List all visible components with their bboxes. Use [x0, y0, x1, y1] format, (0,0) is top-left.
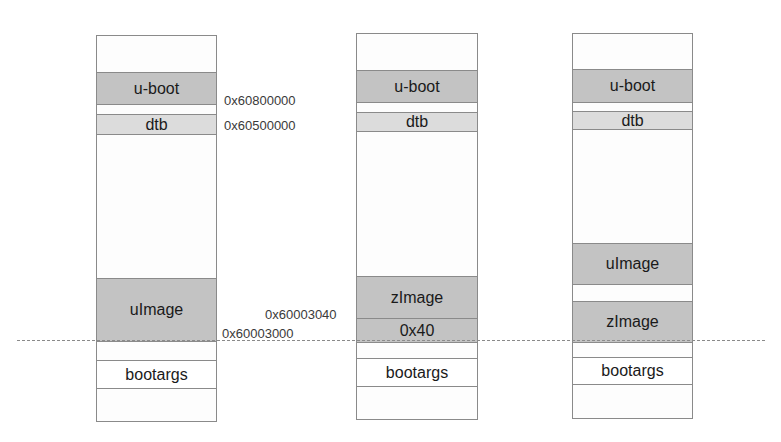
uboot-label: u-boot: [134, 80, 179, 98]
bootargs-label: bootargs: [601, 362, 663, 380]
address-dtb: 0x60500000: [224, 118, 296, 133]
uboot-block: u-boot: [96, 72, 217, 105]
uimage-block: uImage: [96, 278, 217, 342]
bootargs-block: bootargs: [356, 358, 478, 387]
dtb-block: dtb: [96, 114, 217, 135]
uboot-block: u-boot: [356, 70, 478, 103]
zimage-block: zImage: [572, 301, 693, 343]
dtb-label: dtb: [621, 112, 643, 130]
uboot-block: u-boot: [572, 69, 693, 103]
uboot-label: u-boot: [610, 77, 655, 95]
uimage-label: uImage: [606, 255, 659, 273]
zimage-label: zImage: [391, 289, 443, 307]
bootargs-label: bootargs: [125, 366, 187, 384]
memory-column-2: u-boot dtb zImage 0x40 bootargs: [356, 33, 478, 420]
bootargs-label: bootargs: [386, 364, 448, 382]
load-address-dashed-line: [17, 340, 765, 341]
dtb-block: dtb: [356, 112, 478, 132]
zimage-label: zImage: [606, 313, 658, 331]
address-zimage-start: 0x60003040: [265, 307, 337, 322]
address-uboot: 0x60800000: [224, 93, 296, 108]
dtb-label: dtb: [406, 113, 428, 131]
bootargs-block: bootargs: [96, 360, 217, 389]
uboot-label: u-boot: [394, 78, 439, 96]
uimage-block: uImage: [572, 243, 693, 285]
bootargs-block: bootargs: [572, 357, 693, 385]
uimage-label: uImage: [130, 301, 183, 319]
zimage-block: zImage: [356, 276, 478, 319]
dtb-label: dtb: [145, 116, 167, 134]
header-0x40-label: 0x40: [400, 322, 435, 340]
address-load-base: 0x60003000: [222, 326, 294, 341]
memory-column-3: u-boot dtb uImage zImage bootargs: [572, 33, 693, 419]
dtb-block: dtb: [572, 111, 693, 130]
memory-column-1: u-boot dtb uImage bootargs: [96, 35, 217, 422]
